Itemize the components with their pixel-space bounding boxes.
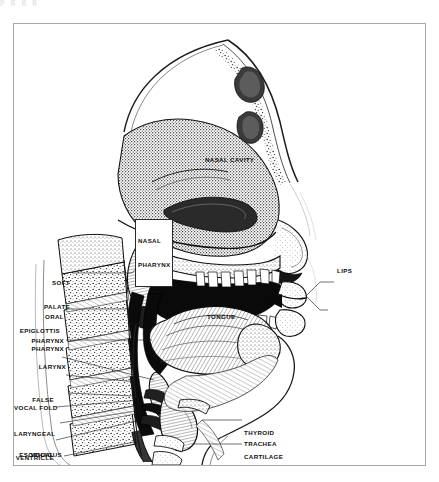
label-trachea: TRACHEA (244, 440, 277, 448)
label-oral-pharynx-line2: PHARYNX (14, 337, 64, 345)
midsagittal-vocal-tract-illustration (14, 24, 425, 465)
label-larynx: LARYNX (14, 363, 66, 371)
plate-frame: NASAL CAVITY NASAL PHARYNX SOFT PALATE O… (13, 23, 426, 466)
label-oral-pharynx-line1: ORAL (14, 313, 64, 321)
scan-edge-artifact: p g g g (0, 0, 439, 14)
label-nasal-pharynx-line1: NASAL (138, 237, 170, 245)
label-thyroid-cartilage-line2: CARTILAGE (244, 453, 283, 461)
anatomy-figure: NASAL CAVITY NASAL PHARYNX SOFT PALATE O… (14, 24, 425, 465)
label-tongue: TONGUE (207, 313, 235, 321)
label-nasal-pharynx-line2: PHARYNX (138, 261, 170, 269)
label-epiglottis: EPIGLOTTIS (14, 327, 60, 335)
label-nasal-pharynx: NASAL PHARYNX (135, 219, 173, 287)
label-lips: LIPS (337, 267, 352, 275)
scan-edge-artifact-text: p g g g (0, 0, 39, 6)
label-pharynx: PHARYNX (14, 345, 64, 353)
figure-page: p g g g (0, 0, 439, 482)
label-false-vocal-fold-line2: VOCAL FOLD (14, 404, 54, 412)
label-vocal-fold: VOCAL FOLD (14, 435, 54, 465)
label-soft-palate-line1: SOFT (14, 279, 70, 287)
label-nasal-cavity: NASAL CAVITY (205, 156, 254, 164)
label-thyroid-cartilage-line1: THYROID (244, 429, 283, 437)
label-esophagus: ESOPHAGUS (14, 451, 62, 459)
label-thyroid-cartilage: THYROID CARTILAGE (244, 413, 283, 465)
